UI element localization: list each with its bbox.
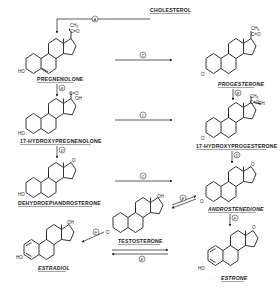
testosterone-label: TESTOSTERONE — [118, 238, 163, 244]
progesterone-structure — [206, 31, 256, 74]
svg-text:D: D — [61, 148, 64, 153]
arrow-estradiol-estrone-reversible — [112, 250, 168, 254]
svg-text:D: D — [236, 153, 239, 158]
svg-text:HO: HO — [18, 192, 25, 197]
svg-text:OH: OH — [258, 101, 265, 106]
enzyme-badge-c-3: C — [140, 173, 146, 179]
steroid-pathway-diagram: CHOLESTEROL A CH₃ C=O HO PREGNENOLONE B … — [0, 0, 280, 288]
pregnenolone-label: PREGNENOLONE — [37, 76, 84, 82]
svg-text:CH₃: CH₃ — [70, 23, 78, 28]
cholesterol-label: CHOLESTEROL — [150, 7, 192, 13]
estradiol-label: ESTRADIOL — [38, 265, 70, 271]
svg-text:O: O — [201, 72, 205, 77]
dhea-label: DEHYDROEPIANDROSTERONE — [18, 200, 101, 206]
svg-text:O: O — [252, 225, 256, 230]
svg-text:F: F — [95, 230, 98, 235]
svg-text:C=O: C=O — [70, 29, 80, 34]
svg-text:OH: OH — [67, 220, 74, 225]
svg-text:O: O — [106, 230, 110, 235]
svg-text:E: E — [141, 257, 144, 262]
svg-text:OH: OH — [157, 194, 164, 199]
svg-text:A: A — [93, 17, 97, 22]
estrone-label: ESTRONE — [221, 275, 248, 281]
testosterone-structure — [113, 198, 163, 233]
enzyme-badge-c-1: C — [140, 52, 146, 58]
svg-text:CH₃: CH₃ — [251, 26, 259, 31]
enzyme-badge-c-2: C — [140, 112, 146, 118]
svg-text:HO: HO — [16, 255, 23, 260]
svg-text:HO: HO — [198, 266, 205, 271]
svg-text:HO: HO — [18, 131, 25, 136]
enzyme-badge-a: A — [92, 16, 98, 22]
dhea-structure — [26, 163, 76, 198]
svg-text:C=O: C=O — [251, 32, 261, 37]
enzyme-badge-b-left: B — [59, 85, 65, 91]
enzyme-badge-f-right: F — [232, 215, 238, 221]
estradiol-structure — [24, 225, 74, 260]
svg-text:O: O — [251, 162, 255, 167]
enzyme-badge-d-right: D — [234, 152, 240, 158]
svg-text:O: O — [72, 158, 76, 163]
svg-text:OH: OH — [75, 96, 82, 101]
cholesterol-node: CHOLESTEROL — [150, 7, 192, 14]
17oh-pregnenolone-label: 17-HYDROXYPREGNENOLONE — [20, 138, 102, 144]
androstenedione-structure — [206, 167, 256, 202]
svg-text:CH₃: CH₃ — [250, 94, 258, 99]
enzyme-badge-e-2: E — [139, 256, 145, 262]
svg-text:B: B — [237, 91, 240, 96]
svg-text:O: O — [200, 199, 204, 204]
svg-text:F: F — [234, 216, 237, 221]
svg-text:E: E — [182, 196, 185, 201]
progesterone-label: PROGESTERONE — [218, 81, 265, 87]
enzyme-badge-f-left: F — [93, 229, 99, 235]
pregnenolone-structure — [26, 29, 76, 74]
enzyme-badge-d-left: D — [59, 147, 65, 153]
androstenedione-label: ANDROSTENEDIONE — [207, 206, 264, 212]
17oh-pregnenolone-structure — [26, 92, 76, 133]
estrone-structure — [208, 231, 258, 266]
svg-text:B: B — [61, 86, 64, 91]
enzyme-badge-e-1: E — [180, 195, 186, 201]
arrow-testosterone-to-estradiol — [82, 232, 104, 242]
17oh-progesterone-label: 17-HYDROXYPROGESTERONE — [196, 143, 278, 149]
svg-text:O: O — [201, 136, 205, 141]
enzyme-badge-b-right: B — [235, 90, 241, 96]
svg-text:HO: HO — [18, 69, 25, 74]
